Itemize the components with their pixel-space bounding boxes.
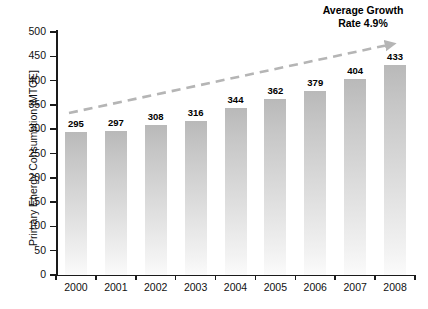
- bar-value-label: 308: [136, 112, 176, 122]
- bar-value-label: 362: [255, 86, 295, 96]
- y-tick-mark: [50, 80, 56, 82]
- x-tick-label: 2007: [335, 281, 375, 293]
- y-tick-label: 450: [20, 50, 46, 60]
- y-tick-label: 200: [20, 172, 46, 182]
- bar-value-label: 433: [375, 52, 415, 62]
- y-tick-label: 250: [20, 148, 46, 158]
- x-tick-mark: [374, 275, 376, 280]
- x-tick-label: 2001: [96, 281, 136, 293]
- y-tick-mark: [50, 104, 56, 106]
- bar: [185, 121, 207, 275]
- y-tick-label: 50: [20, 245, 46, 255]
- x-tick-mark: [135, 275, 137, 280]
- y-tick-mark: [50, 177, 56, 179]
- y-tick-label: 0: [20, 269, 46, 279]
- x-tick-label: 2006: [295, 281, 335, 293]
- bar: [384, 65, 406, 275]
- x-tick-mark: [255, 275, 257, 280]
- x-tick-mark: [295, 275, 297, 280]
- annotation-line-1: Average Growth: [300, 4, 426, 17]
- x-tick-label: 2003: [176, 281, 216, 293]
- bar-value-label: 295: [56, 119, 96, 129]
- x-tick-mark: [334, 275, 336, 280]
- x-tick-mark: [55, 275, 57, 280]
- bar-value-label: 404: [335, 66, 375, 76]
- y-tick-label: 100: [20, 220, 46, 230]
- annotation-line-2: Rate 4.9%: [300, 17, 426, 30]
- x-tick-mark: [175, 275, 177, 280]
- x-tick-label: 2005: [255, 281, 295, 293]
- x-tick-label: 2000: [56, 281, 96, 293]
- y-axis-line: [56, 30, 58, 276]
- bar-value-label: 379: [295, 78, 335, 88]
- x-tick-label: 2002: [136, 281, 176, 293]
- y-tick-mark: [50, 56, 56, 58]
- y-tick-label: 350: [20, 99, 46, 109]
- x-tick-label: 2004: [216, 281, 256, 293]
- annotation-average-growth: Average Growth Rate 4.9%: [300, 4, 426, 29]
- y-tick-label: 150: [20, 196, 46, 206]
- bar: [65, 132, 87, 275]
- y-tick-mark: [50, 128, 56, 130]
- bar-value-label: 316: [176, 108, 216, 118]
- x-tick-mark: [414, 275, 416, 280]
- bar: [145, 125, 167, 275]
- bar-value-label: 297: [96, 118, 136, 128]
- x-tick-label: 2008: [375, 281, 415, 293]
- y-tick-mark: [50, 31, 56, 33]
- bar: [264, 99, 286, 275]
- y-tick-mark: [50, 153, 56, 155]
- bar: [105, 131, 127, 275]
- y-tick-mark: [50, 226, 56, 228]
- bar: [304, 91, 326, 275]
- bar: [344, 79, 366, 275]
- y-tick-mark: [50, 250, 56, 252]
- y-tick-label: 500: [20, 26, 46, 36]
- y-tick-label: 300: [20, 123, 46, 133]
- bar-value-label: 344: [216, 95, 256, 105]
- bar: [225, 108, 247, 275]
- y-tick-mark: [50, 201, 56, 203]
- x-tick-mark: [215, 275, 217, 280]
- x-tick-mark: [95, 275, 97, 280]
- energy-consumption-bar-chart: Primary Energy Consumption [MTOE] 050100…: [0, 0, 428, 309]
- y-tick-label: 400: [20, 75, 46, 85]
